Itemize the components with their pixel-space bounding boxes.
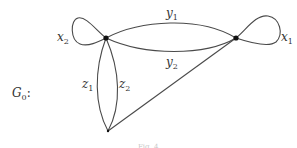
edge-z2: [106, 38, 118, 131]
graph-diagram: x2 x1 y1 y2 z1 z2 G0: Fig. 4: [0, 0, 297, 148]
label-y2: y2: [165, 55, 178, 71]
graph-name: G0:: [12, 86, 31, 102]
edge-y2: [106, 38, 236, 52]
edge-y1: [106, 23, 236, 38]
label-z1: z1: [81, 77, 93, 93]
label-x2: x2: [57, 30, 69, 46]
vertex-right-top: [233, 35, 238, 40]
figure-caption: Fig. 4: [138, 143, 159, 148]
label-y1: y1: [165, 6, 178, 22]
edge-z1: [97, 38, 108, 131]
vertex-bottom: [107, 130, 109, 132]
edge-x2-loop: [72, 18, 106, 45]
label-z2: z2: [118, 77, 130, 93]
label-x1: x1: [281, 30, 293, 46]
vertex-left-top: [103, 35, 108, 40]
edge-x1-loop: [236, 16, 280, 45]
